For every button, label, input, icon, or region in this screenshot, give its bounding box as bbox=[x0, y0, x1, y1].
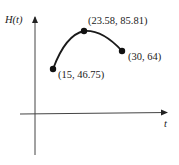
data-point-end bbox=[119, 48, 125, 54]
x-axis-label: t bbox=[164, 118, 168, 129]
chart: H(t) t (15, 46.75) (23.58, 85.81) (30, 6… bbox=[0, 0, 179, 165]
curve bbox=[53, 31, 122, 69]
data-point-max bbox=[81, 28, 87, 34]
x-axis bbox=[20, 113, 167, 115]
data-point-start bbox=[50, 66, 56, 72]
point-label-end: (30, 64) bbox=[128, 51, 162, 63]
y-axis-label: H(t) bbox=[4, 14, 23, 26]
point-label-max: (23.58, 85.81) bbox=[88, 15, 148, 27]
point-label-start: (15, 46.75) bbox=[58, 69, 105, 81]
